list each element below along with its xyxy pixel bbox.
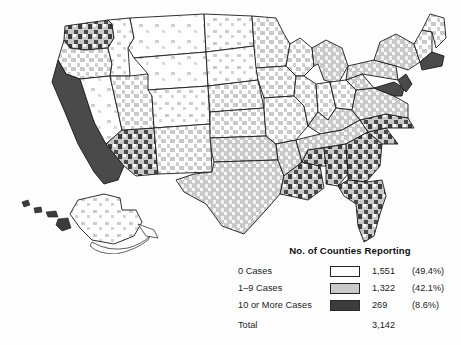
state-colorado — [148, 86, 210, 128]
state-michigan — [312, 40, 348, 84]
map-states-layer — [22, 14, 446, 254]
alaska-inset — [70, 194, 158, 254]
legend-label-total: Total — [238, 321, 330, 330]
state-south-dakota — [206, 46, 258, 86]
figure-root: No. of Counties Reporting 0 Cases 1,551 … — [0, 0, 461, 345]
state-iowa — [256, 66, 296, 98]
state-alaska — [70, 194, 142, 244]
us-county-choropleth-map — [8, 4, 453, 254]
hawaii-kauai — [22, 200, 30, 207]
legend-count-total: 3,142 — [372, 321, 412, 330]
legend-title: No. of Counties Reporting — [244, 246, 456, 256]
state-north-dakota — [204, 14, 254, 52]
legend-row-total: Total 3,142 — [238, 318, 456, 334]
hawaii-inset — [22, 200, 71, 231]
legend-percent-0-cases: (49.4%) — [412, 267, 444, 276]
legend-count-1-9-cases: 1,322 — [372, 284, 412, 293]
legend-swatch-cell-1-9-cases — [330, 283, 372, 294]
legend-row-0-cases: 0 Cases 1,551 (49.4%) — [238, 264, 456, 280]
state-minnesota — [252, 16, 290, 68]
legend-row-1-9-cases: 1–9 Cases 1,322 (42.1%) — [238, 281, 456, 297]
state-washington — [64, 20, 114, 50]
state-kansas — [210, 108, 266, 138]
legend-swatch-cell-10-or-more-cases — [330, 300, 372, 311]
map-legend: No. of Counties Reporting 0 Cases 1,551 … — [238, 246, 456, 334]
legend-label-0-cases: 0 Cases — [238, 267, 330, 276]
state-montana — [128, 14, 206, 58]
state-alabama — [324, 144, 348, 186]
legend-label-1-9-cases: 1–9 Cases — [238, 284, 330, 293]
legend-percent-10-or-more-cases: (8.6%) — [412, 301, 439, 310]
legend-count-10-or-more-cases: 269 — [372, 301, 412, 310]
state-new-mexico — [154, 124, 212, 174]
hawaii-oahu — [34, 207, 42, 213]
legend-percent-1-9-cases: (42.1%) — [412, 284, 444, 293]
map-svg — [8, 4, 453, 254]
light-gray-swatch — [330, 283, 360, 294]
state-oklahoma — [210, 136, 278, 162]
alaska-panhandle — [138, 224, 158, 238]
state-wisconsin — [286, 38, 314, 76]
hawaii-big-island — [56, 218, 71, 231]
legend-count-0-cases: 1,551 — [372, 267, 412, 276]
legend-label-10-or-more-cases: 10 or More Cases — [238, 301, 330, 310]
dark-gray-swatch — [330, 300, 360, 311]
legend-row-10-or-more-cases: 10 or More Cases 269 (8.6%) — [238, 298, 456, 314]
hawaii-molokai-maui — [46, 211, 58, 217]
state-florida — [338, 180, 386, 242]
legend-swatch-cell-0-cases — [330, 266, 372, 277]
state-nebraska — [208, 80, 264, 112]
white-swatch — [330, 266, 360, 277]
